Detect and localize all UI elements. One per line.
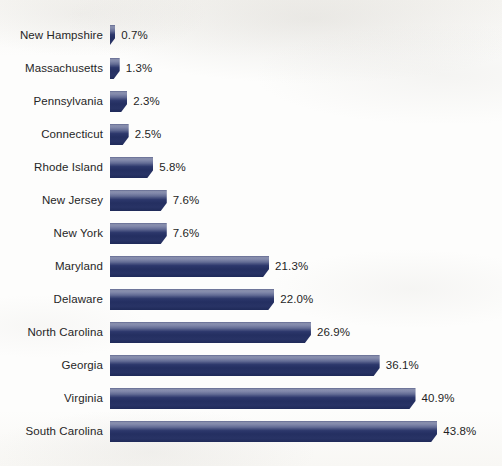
bar-wrapper: [110, 91, 127, 112]
category-label: North Carolina: [0, 322, 103, 343]
bar-wrapper: [110, 421, 437, 442]
bar: [110, 124, 129, 145]
bar-row: New York7.6%: [0, 223, 502, 244]
bar-row: South Carolina43.8%: [0, 421, 502, 442]
category-label: New Hampshire: [0, 25, 103, 46]
bar-row: Maryland21.3%: [0, 256, 502, 277]
category-label: South Carolina: [0, 421, 103, 442]
bar: [110, 25, 115, 46]
bar-wrapper: [110, 190, 167, 211]
bar-value-label: 26.9%: [317, 322, 350, 343]
bar-row: Georgia36.1%: [0, 355, 502, 376]
bar-row: Virginia40.9%: [0, 388, 502, 409]
bar-value-label: 2.5%: [135, 124, 162, 145]
category-label: Pennsylvania: [0, 91, 103, 112]
bar-row: Massachusetts1.3%: [0, 58, 502, 79]
bar-row: North Carolina26.9%: [0, 322, 502, 343]
category-label: Massachusetts: [0, 58, 103, 79]
bar: [110, 421, 437, 442]
bar-row: Rhode Island5.8%: [0, 157, 502, 178]
bar-row: New Hampshire0.7%: [0, 25, 502, 46]
bar-row: Delaware22.0%: [0, 289, 502, 310]
bar-wrapper: [110, 25, 115, 46]
bar: [110, 355, 380, 376]
bar-row: Pennsylvania2.3%: [0, 91, 502, 112]
category-label: Rhode Island: [0, 157, 103, 178]
bar-value-label: 22.0%: [280, 289, 313, 310]
category-label: Connecticut: [0, 124, 103, 145]
bar-value-label: 43.8%: [443, 421, 476, 442]
bar-wrapper: [110, 256, 269, 277]
bar-value-label: 40.9%: [422, 388, 455, 409]
bar-value-label: 7.6%: [173, 190, 200, 211]
category-label: Maryland: [0, 256, 103, 277]
bar-value-label: 5.8%: [159, 157, 186, 178]
bar-wrapper: [110, 223, 167, 244]
bar-value-label: 36.1%: [386, 355, 419, 376]
bar-value-label: 2.3%: [133, 91, 160, 112]
category-label: Virginia: [0, 388, 103, 409]
category-label: New York: [0, 223, 103, 244]
bar-value-label: 21.3%: [275, 256, 308, 277]
category-label: New Jersey: [0, 190, 103, 211]
bar-value-label: 1.3%: [126, 58, 153, 79]
bar: [110, 289, 274, 310]
category-label: Georgia: [0, 355, 103, 376]
bar: [110, 388, 416, 409]
bar: [110, 91, 127, 112]
bar: [110, 58, 120, 79]
bar-wrapper: [110, 388, 416, 409]
bar: [110, 223, 167, 244]
bar-wrapper: [110, 355, 380, 376]
bar-wrapper: [110, 322, 311, 343]
bar: [110, 190, 167, 211]
bar-wrapper: [110, 58, 120, 79]
bar-row: Connecticut2.5%: [0, 124, 502, 145]
bar-value-label: 0.7%: [121, 25, 148, 46]
bar-wrapper: [110, 289, 274, 310]
bar-wrapper: [110, 124, 129, 145]
bar: [110, 256, 269, 277]
bar-row: New Jersey7.6%: [0, 190, 502, 211]
horizontal-bar-chart: New Hampshire0.7%Massachusetts1.3%Pennsy…: [0, 0, 502, 466]
bar-value-label: 7.6%: [173, 223, 200, 244]
category-label: Delaware: [0, 289, 103, 310]
bar-wrapper: [110, 157, 153, 178]
bar: [110, 157, 153, 178]
bar: [110, 322, 311, 343]
